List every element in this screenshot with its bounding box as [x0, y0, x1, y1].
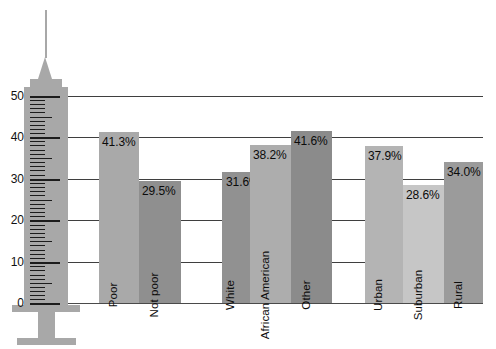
bar-not-poor: 29.5% Not poor [139, 181, 181, 303]
bar-category-label: Suburban [412, 270, 424, 321]
tick-minor [30, 270, 45, 271]
plot-area: 41.3% Poor 29.5% Not poor 31.6% White 38… [0, 0, 496, 349]
tick-minor [30, 154, 45, 155]
bar-value: 41.6% [294, 134, 328, 148]
syringe-plunger-flange-icon [17, 338, 76, 345]
y-axis-label-30: 30 [2, 172, 24, 186]
bar-african-american: 38.2% African American [250, 145, 291, 303]
tick-major [30, 137, 60, 139]
bar-value: 29.5% [142, 184, 176, 198]
tick-minor [30, 299, 45, 300]
tick-mid [30, 241, 52, 242]
tick-major [30, 96, 60, 98]
tick-minor [30, 237, 45, 238]
tick-minor [30, 121, 45, 122]
tick-minor [30, 191, 45, 192]
tick-minor [30, 108, 45, 109]
tick-major [30, 262, 60, 264]
tick-minor [30, 254, 45, 255]
tick-minor [30, 250, 45, 251]
tick-minor [30, 100, 45, 101]
bar-rural: 34.0% Rural [444, 162, 483, 303]
tick-minor [30, 233, 45, 234]
y-axis-label-20: 20 [2, 213, 24, 227]
tick-minor [30, 195, 45, 196]
bar-category-label: Not poor [148, 273, 160, 318]
bar-value: 41.3% [102, 135, 136, 149]
bar-category-label: Urban [372, 279, 384, 311]
y-axis-label-0: 0 [2, 296, 24, 310]
tick-minor [30, 125, 45, 126]
tick-minor [30, 183, 45, 184]
bar-category-label: Other [300, 280, 312, 309]
tick-minor [30, 150, 45, 151]
tick-mid [30, 200, 52, 201]
tick-minor [30, 133, 45, 134]
bar-urban: 37.9% Urban [365, 146, 403, 303]
tick-minor [30, 208, 45, 209]
bar-value: 28.6% [406, 188, 440, 202]
tick-minor [30, 279, 45, 280]
tick-minor [30, 129, 45, 130]
tick-minor [30, 187, 45, 188]
tick-minor [30, 112, 45, 113]
tick-minor [30, 216, 45, 217]
bar-category-label: African American [259, 251, 271, 340]
tick-minor [30, 104, 45, 105]
tick-mid [30, 117, 52, 118]
tick-major [30, 179, 60, 181]
bar-category-label: White [224, 280, 236, 310]
bar-value: 34.0% [447, 165, 481, 179]
tick-minor [30, 266, 45, 267]
y-axis-label-40: 40 [2, 130, 24, 144]
bar-suburban: 28.6% Suburban [403, 185, 444, 303]
tick-major [30, 220, 60, 222]
bar-category-label: Poor [107, 283, 119, 308]
bar-other: 41.6% Other [291, 131, 332, 303]
tick-minor [30, 291, 45, 292]
tick-minor [30, 141, 45, 142]
tick-minor [30, 204, 45, 205]
gridline-50 [49, 96, 483, 97]
tick-minor [30, 258, 45, 259]
bar-poor: 41.3% Poor [99, 132, 139, 303]
y-axis-label-50: 50 [2, 89, 24, 103]
tick-minor [30, 229, 45, 230]
tick-minor [30, 275, 45, 276]
tick-major [30, 303, 60, 305]
y-axis-label-10: 10 [2, 255, 24, 269]
tick-minor [30, 162, 45, 163]
tick-minor [30, 212, 45, 213]
syringe-plunger-rod-icon [38, 311, 55, 339]
tick-minor [30, 245, 45, 246]
syringe-needle-icon [45, 10, 47, 58]
tick-minor [30, 145, 45, 146]
tick-minor [30, 225, 45, 226]
bar-category-label: Rural [452, 281, 464, 309]
tick-mid [30, 158, 52, 159]
tick-mid [30, 283, 52, 284]
tick-minor [30, 295, 45, 296]
bar-value: 37.9% [368, 149, 402, 163]
tick-minor [30, 170, 45, 171]
tick-minor [30, 287, 45, 288]
syringe-hub-icon [38, 57, 52, 79]
tick-minor [30, 166, 45, 167]
bar-value: 38.2% [253, 148, 287, 162]
tick-minor [30, 175, 45, 176]
chart-figure: 41.3% Poor 29.5% Not poor 31.6% White 38… [0, 0, 496, 349]
bar-white: 31.6% White [222, 172, 250, 303]
